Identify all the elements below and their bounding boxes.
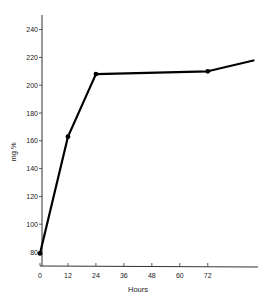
x-tick-label: 72 [204,272,212,279]
y-tick-label: 180 [26,110,38,117]
x-tick-label: 60 [176,272,184,279]
y-axis: 80100120140160180200220240 [26,15,42,266]
y-tick-label: 200 [26,82,38,89]
x-axis-title: Hours [128,285,148,294]
y-tick-label: 140 [26,165,38,172]
data-series [38,60,255,256]
x-axis-line [40,266,258,267]
y-tick-label: 120 [26,193,38,200]
data-point-marker [205,69,210,74]
data-point-marker [94,72,99,77]
line-chart: 80100120140160180200220240 0122436486072… [0,0,272,307]
y-tick-label: 100 [26,221,38,228]
y-tick-label: 80 [30,249,38,256]
x-tick-label: 36 [120,272,128,279]
x-tick-label: 48 [148,272,156,279]
y-axis-title: mg % [9,142,18,162]
series-line [40,60,254,253]
data-point-marker [38,251,43,256]
y-tick-label: 160 [26,137,38,144]
x-tick-label: 24 [92,272,100,279]
y-tick-label: 240 [26,26,38,33]
x-tick-label: 0 [38,272,42,279]
x-tick-label: 12 [64,272,72,279]
x-axis: 0122436486072 [38,263,258,279]
data-point-marker [66,134,71,139]
y-tick-label: 220 [26,54,38,61]
